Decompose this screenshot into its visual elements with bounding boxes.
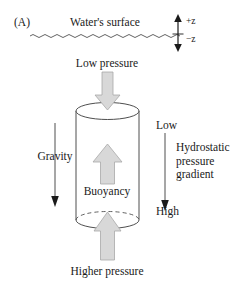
figure-panel-a: (A) Water's surface +z −z Low pressure G… [0,0,235,288]
pressure-gradient-arrow-icon [161,133,169,211]
gravity-arrow-icon [51,123,59,207]
z-axis-up-label: +z [186,16,196,27]
low-pressure-label: Low pressure [76,57,138,70]
z-axis-double-arrow-icon [173,14,184,52]
panel-label: (A) [14,16,30,29]
buoyancy-block-arrow-icon [93,144,122,184]
buoyancy-label: Buoyancy [84,185,131,198]
gravity-label: Gravity [37,150,72,163]
gradient-low-label: Low [156,119,177,132]
gradient-high-label: High [156,205,179,218]
water-surface-label: Water's surface [70,16,140,29]
water-surface-icon [30,35,180,38]
z-axis-down-label: −z [186,34,196,45]
hydrostatic-gradient-label: Hydrostatic pressure gradient [176,141,235,182]
higher-pressure-label: Higher pressure [70,265,143,278]
higher-pressure-block-arrow-icon [94,212,121,260]
